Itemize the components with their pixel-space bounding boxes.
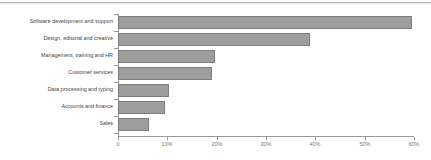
x-axis-tick [118,137,119,140]
x-axis-tick-label: 20% [212,141,223,148]
y-axis-tick [114,65,118,66]
y-axis-tick [114,48,118,49]
x-axis-tick-label: 60% [409,141,420,148]
bar [118,84,169,97]
x-axis-tick [167,137,168,140]
category-label: Design, editorial and creative [43,35,113,42]
x-axis-tick-label: 0 [117,141,120,148]
category-label: Accounts and finance [61,103,113,110]
bar [118,101,165,114]
plot-area: Software development and support Design,… [0,0,431,160]
x-axis-tick-label: 10% [162,141,173,148]
y-axis-tick [114,14,118,15]
bar [118,33,310,46]
x-axis-tick [266,137,267,140]
category-label: Software development and support [29,18,113,25]
bar [118,118,149,131]
y-axis-tick [114,99,118,100]
bar [118,67,212,80]
y-axis-tick [114,82,118,83]
bar [118,16,412,29]
y-axis-tick [114,116,118,117]
category-label: Data processing and typing [48,86,113,93]
category-label: Sales [100,120,114,127]
y-axis-tick [114,31,118,32]
x-axis-tick-label: 50% [360,141,371,148]
x-axis-tick [217,137,218,140]
x-axis-tick [365,137,366,140]
bar-chart-figure: Software development and support Design,… [0,0,431,160]
x-axis-tick-label: 40% [310,141,321,148]
category-label: Management, training and HR [41,52,113,59]
x-axis-tick-label: 30% [261,141,272,148]
y-axis-tick [114,133,118,134]
category-label: Customer services [68,69,113,76]
x-axis-tick [414,137,415,140]
bar [118,50,215,63]
x-axis-tick [315,137,316,140]
